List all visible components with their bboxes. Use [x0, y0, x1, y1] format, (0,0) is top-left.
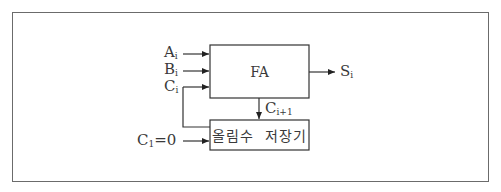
- fa-label-text: FA: [250, 64, 269, 80]
- initial-carry-label: C1=0: [137, 133, 176, 149]
- carry-feedback-line: [183, 87, 210, 127]
- fa-block-label: FA: [210, 45, 309, 98]
- input-b-base: B: [164, 60, 175, 78]
- carry-out-sub: i+1: [276, 107, 292, 117]
- sum-sub: i: [350, 70, 353, 80]
- input-a-sub: i: [175, 51, 178, 61]
- input-b-label: Bi: [164, 62, 178, 78]
- input-c-sub: i: [175, 85, 178, 95]
- register-label-text: 올림수 저장기: [212, 125, 307, 145]
- initial-carry-suffix: =0: [154, 131, 176, 149]
- initial-carry-base: C: [137, 131, 148, 149]
- carry-register-label: 올림수 저장기: [210, 120, 309, 150]
- input-a-base: A: [164, 43, 175, 61]
- input-c-label: Ci: [164, 79, 178, 95]
- input-a-label: Ai: [164, 45, 178, 61]
- sum-base: S: [340, 62, 350, 80]
- input-c-base: C: [164, 77, 175, 95]
- sum-output-label: Si: [340, 64, 353, 80]
- carry-out-label: Ci+1: [265, 101, 293, 117]
- carry-out-base: C: [265, 99, 276, 117]
